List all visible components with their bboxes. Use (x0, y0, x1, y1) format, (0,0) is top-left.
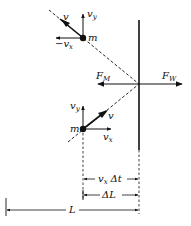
label-neg-vx-top: −vx (55, 38, 73, 51)
label-vy-bottom: vy (70, 100, 81, 113)
collision-diagram: v vy m −vx FM FW v vy m vx vxΔt ΔL L (0, 0, 191, 226)
label-vy-top: vy (87, 8, 98, 21)
mass-top (80, 35, 86, 41)
label-m-bottom: m (70, 123, 79, 134)
label-vxdt: vxΔt (98, 173, 123, 186)
label-dL: ΔL (101, 189, 116, 200)
label-v-top: v (63, 11, 69, 22)
mass-bottom (80, 126, 86, 132)
label-force-m: FM (95, 70, 111, 83)
label-force-w: FW (161, 70, 177, 83)
label-L: L (68, 204, 76, 215)
label-v-bottom: v (108, 110, 114, 121)
label-vx-bottom: vx (103, 131, 113, 144)
label-m-top: m (88, 32, 97, 43)
